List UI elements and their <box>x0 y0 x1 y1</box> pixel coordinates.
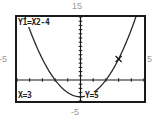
trace-cursor-icon <box>116 56 122 62</box>
function-label: Y1=X2-4 <box>18 19 50 27</box>
trace-y-readout: Y=5 <box>85 92 99 100</box>
window-label-ymax: 15 <box>72 2 82 11</box>
trace-x-readout: X=3 <box>18 92 32 100</box>
window-label-xmax: 5 <box>147 55 152 64</box>
graph-plot <box>17 17 144 101</box>
window-label-ymin: -5 <box>71 108 79 117</box>
window-label-xmin: -5 <box>0 55 7 64</box>
graph-axes <box>17 17 144 101</box>
calculator-graph-screen: Y1=X2-4 X=3 Y=5 <box>15 15 146 103</box>
